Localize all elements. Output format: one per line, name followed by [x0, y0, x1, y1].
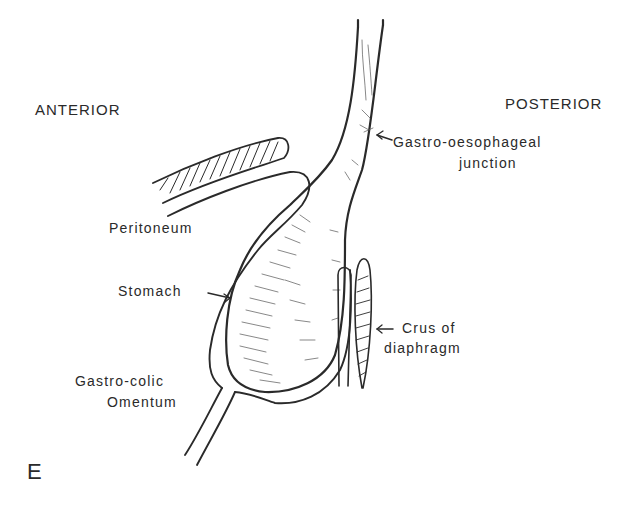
- crus-label-line1: Crus of: [402, 320, 456, 337]
- stomach-sagittal-illustration: [0, 0, 629, 513]
- gastro-oesophageal-label-line1: Gastro-oesophageal: [393, 134, 541, 151]
- stomach-label: Stomach: [118, 283, 182, 300]
- gastro-oesophageal-label-line2: junction: [459, 155, 517, 172]
- anatomy-diagram: ANTERIOR POSTERIOR Gastro-oesophageal ju…: [0, 0, 629, 513]
- anterior-label: ANTERIOR: [35, 101, 121, 118]
- peritoneum-label: Peritoneum: [109, 220, 193, 237]
- peritoneum-outline: [168, 172, 351, 465]
- omentum-label-line2: Omentum: [107, 394, 177, 411]
- panel-letter: E: [27, 463, 42, 480]
- crus-label-line2: diaphragm: [384, 340, 461, 357]
- omentum-label-line1: Gastro-colic: [75, 373, 164, 390]
- posterior-label: POSTERIOR: [505, 95, 602, 112]
- crus-of-diaphragm: [338, 259, 371, 388]
